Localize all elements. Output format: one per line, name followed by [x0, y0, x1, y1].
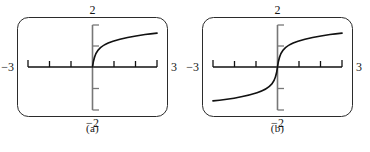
figure-container: −3 3 2 −2 (a): [0, 0, 370, 152]
x-max-label: 3: [356, 60, 362, 74]
panel-a: −3 3 2 −2 (a): [0, 0, 185, 152]
panel-b-caption: (b): [185, 122, 370, 134]
panel-b-plot: −3 3 2 −2: [185, 0, 370, 130]
panel-a-caption: (a): [0, 122, 185, 134]
panel-b-svg: −3 3 2 −2: [185, 0, 370, 130]
y-max-label: 2: [275, 3, 281, 17]
panel-b: −3 3 2 −2 (b): [185, 0, 370, 152]
x-min-label: −3: [186, 60, 199, 74]
x-min-label: −3: [1, 60, 14, 74]
x-max-label: 3: [171, 60, 177, 74]
curve-cube-root-positive: [93, 33, 158, 67]
y-max-label: 2: [90, 3, 96, 17]
panel-a-svg: −3 3 2 −2: [0, 0, 185, 130]
panel-a-plot: −3 3 2 −2: [0, 0, 185, 130]
